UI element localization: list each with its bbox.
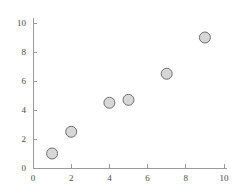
y-tick-label: 0 <box>22 163 27 173</box>
plot-canvas: 0246810 0246810 <box>0 0 238 195</box>
y-tick-label: 10 <box>17 18 27 28</box>
x-tick-label: 4 <box>107 173 112 183</box>
figure-background <box>0 0 238 195</box>
data-point-marker <box>199 32 210 43</box>
x-tick-label: 8 <box>184 173 189 183</box>
data-point-marker <box>123 94 134 105</box>
x-tick-label: 6 <box>145 173 150 183</box>
data-point-marker <box>104 97 115 108</box>
data-point-marker <box>161 68 172 79</box>
scatter-plot-figure: 0246810 0246810 <box>0 0 238 195</box>
data-point-marker <box>47 148 58 159</box>
y-tick-label: 6 <box>22 76 27 86</box>
y-tick-label: 4 <box>22 105 27 115</box>
y-tick-label: 8 <box>22 47 27 57</box>
x-tick-label: 0 <box>31 173 36 183</box>
x-tick-label: 2 <box>69 173 74 183</box>
y-tick-label: 2 <box>22 134 27 144</box>
x-tick-label: 10 <box>220 173 230 183</box>
data-point-marker <box>66 126 77 137</box>
